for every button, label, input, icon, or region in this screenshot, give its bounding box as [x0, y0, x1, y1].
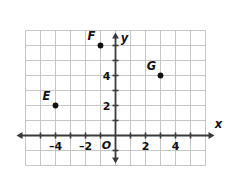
x-axis-arrow-left — [17, 132, 23, 139]
y-axis-label: y — [121, 31, 129, 45]
point-label-g: G — [147, 59, 156, 73]
x-tick-label: 2 — [142, 140, 150, 153]
origin-label: O — [102, 139, 111, 152]
coordinate-plane-figure: –4–22424OxyEFG — [0, 0, 229, 185]
data-point-g — [158, 73, 164, 79]
x-tick-label: 4 — [172, 140, 180, 153]
y-tick-label: 2 — [103, 100, 111, 113]
point-label-e: E — [43, 89, 51, 103]
x-axis-label: x — [214, 117, 223, 131]
y-tick-label: 4 — [103, 70, 111, 83]
point-label-f: F — [88, 29, 96, 43]
coordinate-plane-svg: –4–22424OxyEFG — [0, 0, 229, 185]
data-point-e — [53, 103, 59, 109]
x-axis-arrow-right — [209, 132, 215, 139]
x-tick-label: –2 — [79, 140, 92, 153]
y-axis-arrow-up — [112, 33, 119, 39]
x-tick-label: –4 — [49, 140, 63, 153]
data-point-f — [98, 43, 104, 49]
y-axis-arrow-down — [112, 158, 119, 164]
